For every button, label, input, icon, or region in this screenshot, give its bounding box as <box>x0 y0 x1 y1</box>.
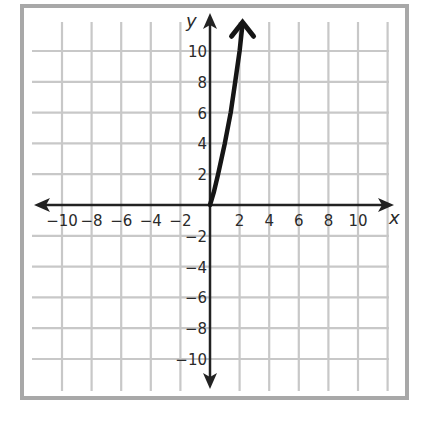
x-tick-label: −6 <box>110 212 132 230</box>
y-tick-label: −8 <box>185 320 207 338</box>
x-tick-label: 4 <box>264 212 274 230</box>
x-tick-label: 10 <box>348 212 367 230</box>
y-tick-label: −4 <box>185 259 207 277</box>
x-tick-label: −4 <box>140 212 162 230</box>
y-tick-label: 10 <box>188 43 207 61</box>
x-tick-label: −10 <box>46 212 78 230</box>
y-tick-label: −10 <box>175 351 207 369</box>
y-tick-label: −6 <box>185 289 207 307</box>
x-axis <box>34 198 394 212</box>
y-tick-label: 4 <box>197 135 207 153</box>
coordinate-plane: x y −10−8−6−4−2246810 108642−2−4−6−8−10 <box>0 0 425 423</box>
x-tick-label: 6 <box>294 212 304 230</box>
y-tick-label: 2 <box>197 166 207 184</box>
x-tick-label: −8 <box>81 212 103 230</box>
x-tick-label: 8 <box>324 212 334 230</box>
y-tick-label: −2 <box>185 228 207 246</box>
y-tick-label: 8 <box>197 74 207 92</box>
y-axis-label: y <box>185 10 197 31</box>
frame-border <box>22 6 407 398</box>
x-axis-label: x <box>388 207 400 228</box>
y-tick-label: 6 <box>197 105 207 123</box>
x-tick-label: 2 <box>235 212 245 230</box>
